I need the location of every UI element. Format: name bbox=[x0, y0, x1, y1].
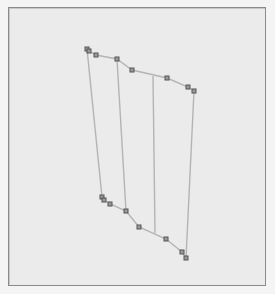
vertical-edge-4 bbox=[186, 91, 194, 258]
vertex-handle[interactable] bbox=[137, 225, 141, 229]
vertex-handle[interactable] bbox=[165, 76, 169, 80]
vertical-edge-3 bbox=[153, 76, 155, 233]
top-edge bbox=[87, 49, 194, 91]
vertex-handle[interactable] bbox=[180, 250, 184, 254]
vertical-edge-1 bbox=[87, 49, 102, 197]
vertical-edge-2 bbox=[117, 59, 126, 211]
vertex-handle[interactable] bbox=[186, 85, 190, 89]
mesh-vertices[interactable] bbox=[85, 47, 196, 260]
vertex-handle[interactable] bbox=[184, 256, 188, 260]
vertex-handle[interactable] bbox=[94, 53, 98, 57]
vertex-handle[interactable] bbox=[102, 198, 106, 202]
vertex-handle[interactable] bbox=[115, 57, 119, 61]
vertex-handle[interactable] bbox=[164, 237, 168, 241]
bottom-edge bbox=[102, 197, 186, 258]
vertex-handle[interactable] bbox=[130, 68, 134, 72]
vertex-handle[interactable] bbox=[87, 49, 91, 53]
vertex-handle[interactable] bbox=[192, 89, 196, 93]
wireframe-mesh[interactable] bbox=[0, 0, 275, 294]
vertex-handle[interactable] bbox=[108, 202, 112, 206]
vertex-handle[interactable] bbox=[124, 209, 128, 213]
